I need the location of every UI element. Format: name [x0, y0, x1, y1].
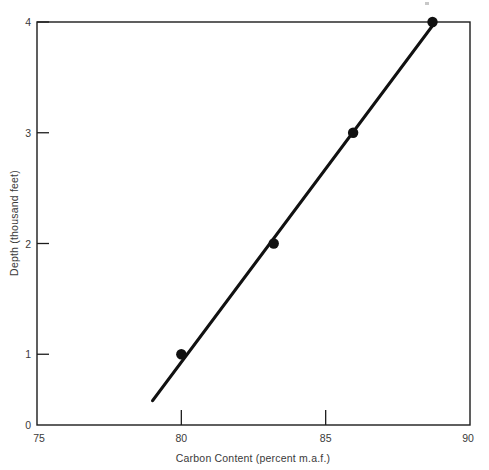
x-tick-label-90: 90	[462, 432, 474, 444]
trend-line	[153, 23, 435, 400]
y-axis-title: Depth (thousand feet)	[8, 170, 20, 276]
data-point	[269, 238, 279, 248]
data-point	[427, 17, 437, 27]
chart-canvas: 4 3 2 1 0 75 80 85 90 Carbon Content (pe…	[0, 0, 489, 470]
chart-figure: 4 3 2 1 0 75 80 85 90 Carbon Content (pe…	[0, 0, 489, 470]
x-tick-label-80: 80	[175, 432, 187, 444]
x-tick-label-85: 85	[320, 432, 332, 444]
y-tick-label-4: 4	[25, 16, 31, 28]
x-tick-label-75: 75	[33, 432, 45, 444]
scan-artifact-speck	[425, 2, 429, 5]
y-tick-label-1: 1	[25, 348, 31, 360]
plot-frame	[37, 22, 470, 425]
y-tick-label-0: 0	[25, 419, 31, 431]
x-axis-title: Carbon Content (percent m.a.f.)	[176, 452, 330, 464]
data-point	[348, 128, 358, 138]
y-tick-label-3: 3	[25, 127, 31, 139]
data-point	[176, 349, 186, 359]
y-tick-label-2: 2	[25, 238, 31, 250]
